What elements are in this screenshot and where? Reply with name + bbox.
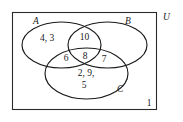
set-b-ellipse xyxy=(68,22,147,68)
region-c-only-value-line1: 2, 9, xyxy=(78,68,95,78)
region-a-only-value: 4, 3 xyxy=(40,33,55,43)
set-c-label: C xyxy=(117,84,124,94)
region-c-only-value-line2: 5 xyxy=(82,80,87,90)
region-b-c-value: 7 xyxy=(102,54,107,64)
set-b-label: B xyxy=(125,16,131,26)
venn-diagram-canvas: A B C U 4, 3 10 6 8 7 2, 9, 5 1 xyxy=(0,0,183,122)
set-a-label: A xyxy=(32,16,39,26)
region-a-b-c-value: 8 xyxy=(83,51,88,61)
region-a-b-value: 10 xyxy=(80,32,90,42)
set-a-ellipse xyxy=(22,22,101,68)
universal-set-label: U xyxy=(163,12,171,22)
region-outside-value: 1 xyxy=(147,98,152,108)
region-a-c-value: 6 xyxy=(64,53,69,63)
venn-diagram-screenshot: A B C U 4, 3 10 6 8 7 2, 9, 5 1 xyxy=(0,0,183,122)
